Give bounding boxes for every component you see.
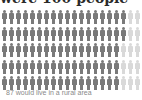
person-legs: [101, 52, 104, 57]
person-legs: [66, 69, 69, 74]
person-icon: [64, 60, 71, 75]
person-icon: [50, 43, 57, 58]
person-icon: [64, 27, 71, 42]
person-legs: [94, 19, 97, 24]
person-icon: [78, 10, 85, 25]
person-legs: [45, 19, 48, 24]
person-icon: [120, 27, 127, 42]
person-icon: [127, 60, 134, 75]
person-legs: [101, 69, 104, 74]
person-icon: [50, 27, 57, 42]
person-icon: [85, 43, 92, 58]
person-icon: [15, 43, 22, 58]
person-icon: [36, 10, 43, 25]
person-legs: [17, 52, 20, 57]
person-legs: [129, 85, 132, 90]
person-icon: [85, 10, 92, 25]
person-icon: [50, 10, 57, 25]
person-icon: [120, 76, 127, 91]
person-legs: [52, 36, 55, 41]
person-legs: [3, 52, 6, 57]
person-legs: [45, 69, 48, 74]
person-legs: [10, 19, 13, 24]
person-icon: [36, 60, 43, 75]
person-icon: [127, 27, 134, 42]
person-legs: [129, 19, 132, 24]
person-icon: [134, 76, 141, 91]
person-icon: [22, 60, 29, 75]
person-icon: [120, 10, 127, 25]
person-legs: [24, 19, 27, 24]
person-icon: [1, 60, 8, 75]
person-icon: [43, 60, 50, 75]
person-icon: [85, 27, 92, 42]
person-icon: [8, 43, 15, 58]
person-icon: [78, 60, 85, 75]
person-icon: [29, 60, 36, 75]
person-legs: [73, 19, 76, 24]
person-legs: [115, 69, 118, 74]
person-legs: [101, 19, 104, 24]
person-legs: [45, 36, 48, 41]
person-legs: [80, 36, 83, 41]
person-legs: [38, 19, 41, 24]
person-icon: [106, 76, 113, 91]
person-icon: [99, 76, 106, 91]
person-icon: [43, 43, 50, 58]
person-icon: [113, 60, 120, 75]
person-legs: [24, 52, 27, 57]
person-icon: [92, 60, 99, 75]
person-legs: [136, 19, 139, 24]
person-icon: [99, 60, 106, 75]
person-legs: [17, 36, 20, 41]
person-legs: [122, 52, 125, 57]
person-legs: [66, 52, 69, 57]
person-legs: [115, 85, 118, 90]
person-icon: [120, 43, 127, 58]
person-legs: [115, 19, 118, 24]
person-icon: [71, 27, 78, 42]
person-legs: [73, 69, 76, 74]
person-legs: [80, 69, 83, 74]
person-icon: [99, 43, 106, 58]
person-legs: [108, 52, 111, 57]
person-legs: [73, 36, 76, 41]
person-icon: [57, 27, 64, 42]
person-icon: [85, 60, 92, 75]
person-legs: [108, 19, 111, 24]
person-icon: [15, 27, 22, 42]
person-icon: [71, 43, 78, 58]
person-legs: [94, 69, 97, 74]
person-legs: [129, 36, 132, 41]
person-icon: [106, 10, 113, 25]
person-icon: [57, 60, 64, 75]
person-icon: [120, 60, 127, 75]
person-legs: [38, 69, 41, 74]
person-legs: [10, 36, 13, 41]
person-legs: [31, 36, 34, 41]
chart-title: were 100 people: [0, 0, 128, 5]
person-legs: [101, 85, 104, 90]
person-legs: [52, 52, 55, 57]
person-icon: [99, 27, 106, 42]
person-legs: [94, 52, 97, 57]
chart-caption: 87 would live in a rural area: [6, 89, 92, 97]
person-legs: [17, 69, 20, 74]
person-legs: [24, 36, 27, 41]
person-legs: [31, 19, 34, 24]
person-legs: [87, 19, 90, 24]
person-icon: [8, 10, 15, 25]
person-icon: [29, 43, 36, 58]
person-icon: [43, 10, 50, 25]
person-icon: [50, 60, 57, 75]
person-legs: [136, 52, 139, 57]
person-legs: [52, 69, 55, 74]
person-legs: [59, 36, 62, 41]
person-icon: [113, 43, 120, 58]
person-legs: [3, 69, 6, 74]
person-legs: [108, 36, 111, 41]
person-legs: [108, 69, 111, 74]
person-icon: [106, 43, 113, 58]
person-legs: [10, 69, 13, 74]
person-icon: [99, 10, 106, 25]
